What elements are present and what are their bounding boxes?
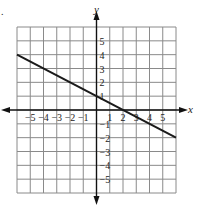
- x-tick-label: −4: [38, 112, 49, 123]
- y-tick-label: 3: [100, 64, 105, 75]
- axes: [1, 11, 188, 205]
- x-tick-label: 2: [121, 112, 126, 123]
- y-tick-label: 5: [100, 36, 105, 47]
- y-axis-label: y: [93, 3, 99, 15]
- problem-marker: .: [1, 6, 4, 17]
- y-tick-label: −5: [100, 174, 111, 185]
- y-tick-label: 2: [100, 77, 105, 88]
- x-tick-label: −3: [51, 112, 62, 123]
- x-tick-label: −2: [65, 112, 76, 123]
- x-tick-label: 4: [147, 112, 152, 123]
- y-tick-label: −2: [100, 133, 111, 144]
- y-tick-label: −3: [100, 147, 111, 158]
- y-tick-label: −1: [100, 119, 111, 130]
- x-tick-label: −5: [25, 112, 36, 123]
- x-tick-label: −1: [78, 112, 89, 123]
- y-tick-label: 4: [100, 50, 105, 61]
- y-tick-label: −4: [100, 160, 111, 171]
- coordinate-plane: . −5−4−3−2−11234554321−1−2−3−4−5 x y: [0, 0, 201, 210]
- x-axis-label: x: [187, 103, 193, 115]
- x-tick-label: 5: [160, 112, 165, 123]
